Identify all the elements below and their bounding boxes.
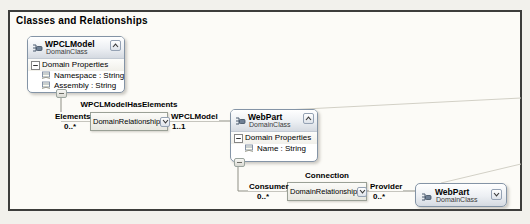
connector-label: DomainRelationship	[93, 117, 160, 126]
domain-relationship-connector[interactable]: DomainRelationship	[90, 112, 168, 131]
class-kind: DomainClass	[46, 48, 88, 55]
handle-dash-icon	[59, 93, 64, 94]
source-role-label: Consumer	[248, 182, 286, 191]
property-row[interactable]: Namespace : String	[28, 71, 124, 81]
collapse-shape-button[interactable]	[303, 113, 314, 124]
domain-class-icon	[421, 189, 432, 200]
compartment-title: Domain Properties	[42, 60, 108, 69]
property-label: Name : String	[257, 144, 306, 153]
connector-label: DomainRelationship	[290, 187, 357, 196]
expand-shape-button[interactable]	[491, 189, 502, 200]
connection-port-handle[interactable]	[234, 158, 245, 167]
shape-header: WPCLModel DomainClass	[28, 37, 124, 59]
properties-compartment-header: Domain Properties	[28, 59, 124, 71]
domain-class-shape-webpart[interactable]: WebPart DomainClass Domain Properties Na…	[230, 109, 318, 162]
compartment-collapse-icon[interactable]	[234, 134, 243, 143]
source-multiplicity: 0..*	[256, 192, 270, 201]
relationship-title: WPCLModelHasElements	[69, 100, 189, 109]
handle-dash-icon	[237, 162, 242, 163]
property-row[interactable]: Name : String	[231, 144, 317, 154]
domain-property-icon	[41, 71, 51, 80]
chevron-down-icon	[493, 192, 500, 197]
expand-connector-button[interactable]	[357, 187, 367, 197]
shape-header: WebPart DomainClass	[416, 184, 506, 205]
diagram-canvas: Classes and Relationships WPCLModel Doma…	[0, 0, 530, 224]
domain-class-icon	[235, 113, 246, 124]
expand-connector-button[interactable]	[160, 117, 170, 127]
source-multiplicity: 0..*	[63, 122, 77, 131]
compartment-collapse-icon[interactable]	[31, 61, 40, 70]
target-role-label: Provider	[369, 182, 403, 191]
domain-class-icon	[32, 40, 43, 51]
swimlane-title: Classes and Relationships	[16, 15, 148, 26]
domain-class-shape-webpart-reference[interactable]: WebPart DomainClass	[415, 183, 507, 207]
shape-header: WebPart DomainClass	[231, 110, 317, 132]
chevron-down-icon	[359, 189, 366, 194]
class-kind: DomainClass	[436, 196, 478, 203]
property-row[interactable]: Assembly : String	[28, 81, 124, 91]
source-role-label: Elements	[54, 112, 90, 121]
chevron-up-icon	[112, 43, 119, 48]
class-kind: DomainClass	[249, 121, 291, 128]
compartment-title: Domain Properties	[245, 133, 311, 142]
domain-property-icon	[41, 81, 51, 90]
relationship-title: Connection	[267, 171, 387, 180]
property-label: Namespace : String	[54, 71, 124, 80]
domain-property-icon	[244, 144, 254, 153]
collapse-shape-button[interactable]	[110, 40, 121, 51]
target-multiplicity: 1..1	[171, 122, 186, 131]
target-multiplicity: 0..*	[372, 192, 386, 201]
domain-class-shape-wpclmodel[interactable]: WPCLModel DomainClass Domain Properties …	[27, 36, 125, 93]
target-role-label: WPCLModel	[170, 112, 219, 121]
connection-port-handle[interactable]	[56, 89, 67, 98]
domain-relationship-connector[interactable]: DomainRelationship	[287, 182, 367, 201]
chevron-up-icon	[305, 116, 312, 121]
chevron-down-icon	[162, 119, 169, 124]
properties-compartment-header: Domain Properties	[231, 132, 317, 144]
